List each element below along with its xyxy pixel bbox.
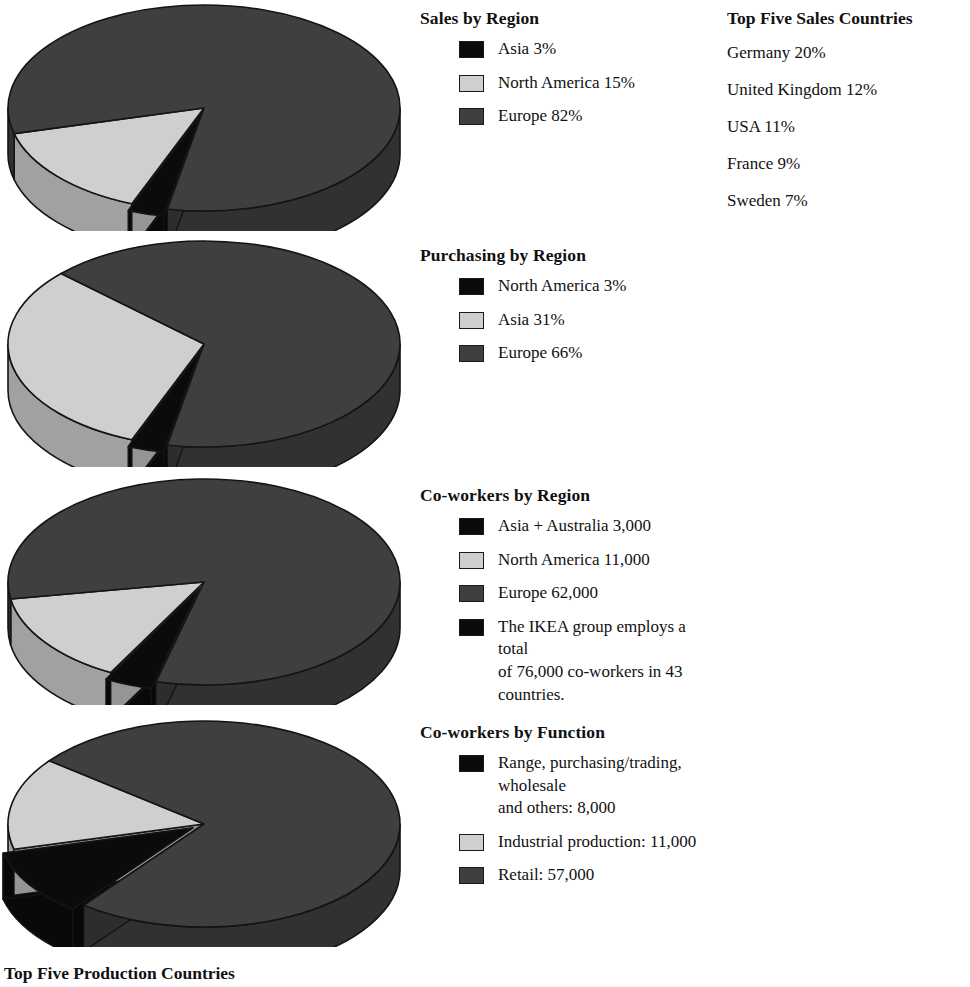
legend-item-label: Asia + Australia 3,000 (498, 515, 651, 538)
legend-swatch-icon (459, 41, 484, 58)
legend-item: Europe 82% (420, 105, 720, 128)
legend-item-label: Europe 62,000 (498, 582, 598, 605)
legend-heading: Co-workers by Region (420, 485, 720, 506)
legend-item-label: Industrial production: 11,000 (498, 831, 696, 854)
legend-item: Europe 66% (420, 342, 720, 365)
pie-chart-coworkers-by-region (0, 470, 420, 705)
list-item: USA 11% (727, 117, 970, 137)
legend-swatch-icon (459, 867, 484, 884)
legend-note-label: The IKEA group employs a total of 76,000… (498, 616, 720, 706)
legend-item-label: North America 11,000 (498, 549, 650, 572)
pie-chart-purchasing-by-region (0, 232, 420, 467)
legend-list: North America 3% Asia 31% Europe 66% (420, 275, 720, 365)
side-panel-heading: Top Five Sales Countries (727, 8, 970, 29)
legend-item-label: Asia 3% (498, 38, 556, 61)
pie-chart-sales-by-region (0, 0, 420, 231)
legend-heading: Co-workers by Function (420, 722, 720, 743)
side-panel-list: Germany 20% United Kingdom 12% USA 11% F… (727, 43, 970, 211)
legend-swatch-icon (459, 345, 484, 362)
legend-item: Range, purchasing/trading, wholesale and… (420, 752, 720, 820)
legend-list: Asia 3% North America 15% Europe 82% (420, 38, 720, 128)
legend-swatch-icon (459, 552, 484, 569)
legend-item: Retail: 57,000 (420, 864, 720, 887)
legend-item: North America 11,000 (420, 549, 720, 572)
legend-item-label: North America 3% (498, 275, 626, 298)
legend-item-label: Europe 66% (498, 342, 583, 365)
legend-swatch-icon (459, 585, 484, 602)
legend-coworkers-by-region: Co-workers by Region Asia + Australia 3,… (420, 485, 720, 717)
legend-item: North America 3% (420, 275, 720, 298)
legend-swatch-icon (459, 518, 484, 535)
top-five-sales-countries-panel: Top Five Sales Countries Germany 20% Uni… (727, 8, 970, 228)
pie-chart-coworkers-by-function (0, 712, 420, 947)
legend-item-label: Retail: 57,000 (498, 864, 594, 887)
legend-swatch-icon (459, 75, 484, 92)
legend-item: Europe 62,000 (420, 582, 720, 605)
list-item: Sweden 7% (727, 191, 970, 211)
legend-swatch-icon (459, 312, 484, 329)
legend-item-label: Asia 31% (498, 309, 565, 332)
list-item: France 9% (727, 154, 970, 174)
legend-item-label: North America 15% (498, 72, 635, 95)
legend-list: Range, purchasing/trading, wholesale and… (420, 752, 720, 887)
legend-purchasing-by-region: Purchasing by Region North America 3% As… (420, 245, 720, 376)
list-item: Germany 20% (727, 43, 970, 63)
legend-item: Asia 31% (420, 309, 720, 332)
legend-swatch-icon (459, 619, 484, 636)
legend-heading: Purchasing by Region (420, 245, 720, 266)
legend-swatch-icon (459, 834, 484, 851)
legend-coworkers-by-function: Co-workers by Function Range, purchasing… (420, 722, 720, 898)
legend-item: Asia + Australia 3,000 (420, 515, 720, 538)
legend-swatch-icon (459, 755, 484, 772)
legend-heading: Sales by Region (420, 8, 720, 29)
legend-item-label: Range, purchasing/trading, wholesale and… (498, 752, 720, 820)
list-item: United Kingdom 12% (727, 80, 970, 100)
legend-list: Asia + Australia 3,000 North America 11,… (420, 515, 720, 706)
legend-sales-by-region: Sales by Region Asia 3% North America 15… (420, 8, 720, 139)
legend-item: Asia 3% (420, 38, 720, 61)
legend-item: Industrial production: 11,000 (420, 831, 720, 854)
legend-item: North America 15% (420, 72, 720, 95)
legend-item-note: The IKEA group employs a total of 76,000… (420, 616, 720, 706)
legend-swatch-icon (459, 108, 484, 125)
top-five-production-countries-heading: Top Five Production Countries (4, 963, 235, 987)
legend-item-label: Europe 82% (498, 105, 583, 128)
legend-swatch-icon (459, 278, 484, 295)
